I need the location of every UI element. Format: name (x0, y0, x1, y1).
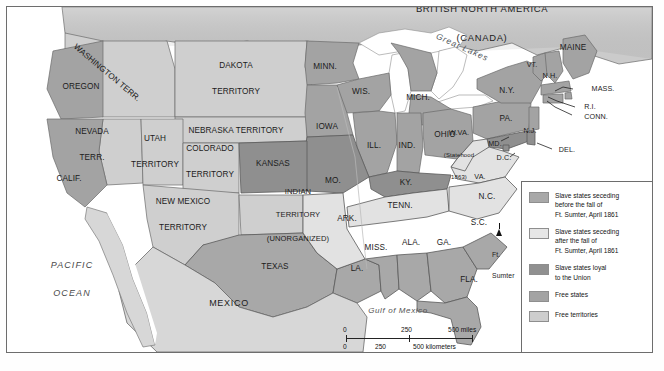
rhode-island-shape (565, 92, 572, 99)
map-frame: BRITISH NORTH AMERICA (CANADA) Great Lak… (6, 6, 653, 353)
district-of-columbia-shape (503, 145, 509, 151)
legend-0-line1: Slave states seceding (555, 191, 619, 200)
legend-1-line1: Slave states seceding (555, 227, 619, 236)
scale-km-mid: 250 (375, 343, 386, 350)
legend-text-loyal-slave-states: Slave states loyal to the Union (555, 263, 606, 282)
scale-miles-end: 500 miles (448, 326, 476, 333)
legend-text-seceded-after: Slave states seceding after the fall of … (555, 227, 619, 255)
legend-0-line2: before the fall of (555, 200, 619, 209)
legend-1-line3: Ft. Sumter, April 1861 (555, 246, 619, 255)
dakota-territory-shape (175, 41, 317, 117)
legend-swatch-seceded-after (529, 228, 549, 239)
legend-swatch-loyal-slave-states (529, 264, 549, 275)
scale-miles-mid: 250 (401, 326, 412, 333)
legend-swatch-seceded-before (529, 192, 549, 203)
legend-swatch-free-territories (529, 311, 549, 322)
indian-territory-shape (239, 195, 303, 235)
delaware-shape (527, 131, 535, 145)
new-jersey-shape (529, 107, 539, 131)
scale-km-zero: 0 (343, 343, 347, 350)
scale-miles-zero: 0 (343, 326, 347, 333)
utah-territory-shape (141, 119, 183, 185)
scale-km-end: 500 kilometers (413, 343, 456, 350)
legend-0-line3: Ft. Sumter, April 1861 (555, 210, 619, 219)
oregon-shape (47, 41, 103, 119)
ft-sumter-marker-icon (496, 229, 502, 236)
legend-item-loyal-slave-states: Slave states loyal to the Union (529, 263, 647, 282)
legend-item-free-territories: Free territories (529, 310, 647, 322)
map-figure: BRITISH NORTH AMERICA (CANADA) Great Lak… (0, 0, 664, 371)
colorado-territory-shape (183, 143, 239, 193)
legend-3-line1: Free states (555, 290, 588, 299)
scale-tick-mid (409, 335, 410, 342)
nevada-territory-shape (99, 119, 143, 185)
legend-text-free-territories: Free territories (555, 310, 598, 319)
ft-sumter-marker-stem-icon (499, 223, 500, 229)
minnesota-shape (305, 41, 359, 85)
legend-2-line1: Slave states loyal (555, 263, 606, 272)
legend-item-free-states: Free states (529, 290, 647, 302)
connecticut-shape (543, 94, 563, 103)
legend-2-line2: to the Union (555, 273, 606, 282)
nebraska-territory-shape (175, 117, 307, 143)
legend-item-seceded-before: Slave states seceding before the fall of… (529, 191, 647, 219)
legend-text-seceded-before: Slave states seceding before the fall of… (555, 191, 619, 219)
scale-bar: 0 250 500 miles 0 250 500 kilometers (340, 325, 480, 353)
scale-tick-0 (346, 335, 347, 342)
legend-swatch-free-states (529, 291, 549, 302)
indiana-shape (397, 113, 423, 173)
legend-1-line2: after the fall of (555, 236, 619, 245)
legend-text-free-states: Free states (555, 290, 588, 299)
kansas-shape (239, 141, 307, 193)
legend-item-seceded-after: Slave states seceding after the fall of … (529, 227, 647, 255)
scale-tick-end (472, 335, 473, 342)
map-legend: Slave states seceding before the fall of… (521, 181, 652, 352)
legend-4-line1: Free territories (555, 310, 598, 319)
